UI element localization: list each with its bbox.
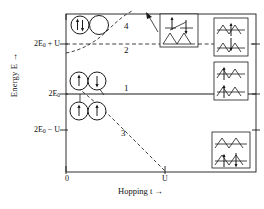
curve-label-1: 1 xyxy=(124,83,129,93)
well-inset-triplet xyxy=(214,62,248,100)
well-inset-ground-state xyxy=(212,132,250,168)
state-icon-doublon xyxy=(71,16,109,35)
curve-label-4: 4 xyxy=(124,21,129,31)
plot-canvas: 4 2 1 3 xyxy=(0,0,264,209)
inset-pointer-arrowhead xyxy=(146,12,152,19)
curve-label-2: 2 xyxy=(124,45,129,55)
state-icon-triplet xyxy=(70,102,106,120)
energy-level-figure: Energy E → 2E0 + U 2E0 2E0 − U 0 U Hoppi… xyxy=(0,0,264,209)
curve-label-3: 3 xyxy=(121,128,126,138)
empty-site-circle xyxy=(90,16,109,35)
well-inset-upper-branch xyxy=(214,18,248,56)
well-inset-antibonding xyxy=(160,14,198,47)
state-icon-singlet xyxy=(70,72,106,90)
